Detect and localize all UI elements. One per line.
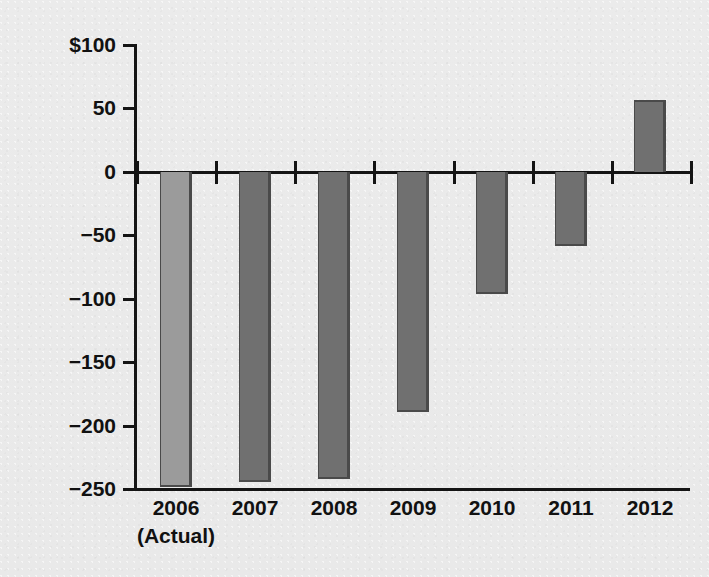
y-tick-label: $100 — [44, 33, 116, 57]
x-tick-label: 2006 — [153, 496, 200, 520]
x-tick-mark — [215, 161, 218, 184]
y-tick-label: −100 — [44, 287, 116, 311]
y-axis-tick-labels: $100500−50−100−150−200−250 — [44, 0, 116, 577]
bar-2009 — [397, 172, 429, 412]
bar-2008 — [318, 172, 350, 479]
x-tick-mark — [453, 161, 456, 184]
x-tick-label: 2012 — [627, 496, 674, 520]
y-tick-label: −200 — [44, 414, 116, 438]
y-tick-label: 0 — [44, 160, 116, 184]
x-tick-mark — [136, 161, 139, 184]
x-tick-sublabel: (Actual) — [137, 524, 215, 548]
x-tick-label: 2010 — [469, 496, 516, 520]
x-tick-mark — [532, 161, 535, 184]
bar-2010 — [476, 172, 508, 294]
x-tick-mark — [373, 161, 376, 184]
x-tick-label: 2011 — [548, 496, 594, 520]
x-tick-label: 2009 — [390, 496, 437, 520]
x-tick-label: 2008 — [311, 496, 358, 520]
bar-2006 — [160, 172, 192, 487]
x-axis-bottom-line — [134, 488, 690, 491]
x-tick-mark — [294, 161, 297, 184]
y-tick-label: −50 — [44, 223, 116, 247]
bar-2011 — [555, 172, 587, 246]
y-tick-label: −250 — [44, 477, 116, 501]
x-tick-mark — [690, 161, 693, 184]
bar-2007 — [239, 172, 271, 482]
x-tick-label: 2007 — [232, 496, 279, 520]
y-tick-label: 50 — [44, 96, 116, 120]
y-axis-spine — [134, 44, 137, 490]
bar-chart-figure: In billions $100500−50−100−150−200−250 2… — [0, 0, 709, 577]
bar-2012 — [634, 100, 666, 172]
y-tick-label: −150 — [44, 350, 116, 374]
x-tick-mark — [611, 161, 614, 184]
